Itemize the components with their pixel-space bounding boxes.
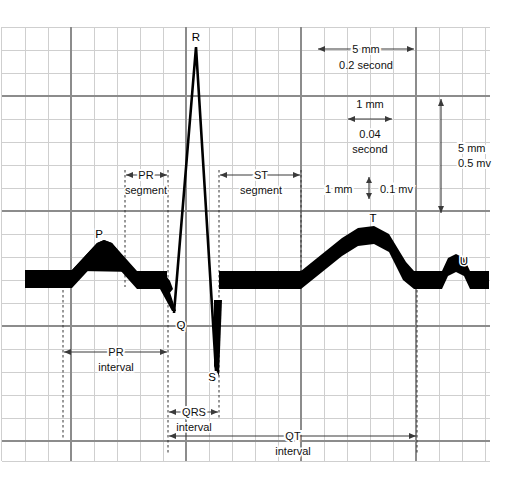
scale-vertical-minor-distance: 1 mm — [325, 183, 353, 195]
pr-segment-label: PR — [138, 169, 153, 181]
wave-label-p: P — [95, 228, 103, 240]
scale-vertical-major-distance: 5 mm — [458, 142, 486, 154]
pr-segment-sublabel: segment — [125, 184, 167, 196]
ecg-canvas: 5 mm 0.2 second 1 mm 0.04 second 5 mm 0.… — [0, 0, 515, 485]
scale-vertical-major-value: 0.5 mv — [458, 157, 492, 169]
ecg-s-wave — [214, 300, 222, 376]
st-segment-sublabel: segment — [240, 184, 282, 196]
qt-interval-label: QT — [285, 430, 301, 442]
scale-horizontal-minor-value: 0.04 — [359, 128, 380, 140]
wave-label-r: R — [192, 31, 200, 43]
scale-vertical-major: 5 mm 0.5 mv — [438, 99, 492, 213]
qt-interval-sublabel: interval — [275, 445, 310, 457]
scale-horizontal-major-value: 0.2 second — [339, 59, 393, 71]
qrs-interval-sublabel: interval — [176, 421, 211, 433]
pr-interval-sublabel: interval — [98, 361, 133, 373]
wave-label-u: U — [460, 255, 468, 267]
scale-horizontal-minor-distance: 1 mm — [356, 98, 384, 110]
scale-horizontal-major-distance: 5 mm — [352, 43, 380, 55]
wave-label-q: Q — [177, 319, 186, 331]
pr-segment-annotation: PR segment — [125, 169, 167, 196]
wave-labels: P Q R S T U — [95, 31, 468, 383]
scale-vertical-minor-value: 0.1 mv — [380, 183, 414, 195]
scale-vertical-minor: 1 mm 0.1 mv — [325, 177, 414, 199]
st-segment-label: ST — [254, 169, 268, 181]
scale-horizontal-minor-value-unit: second — [352, 143, 387, 155]
wave-label-t: T — [369, 212, 376, 224]
wave-label-s: S — [208, 371, 216, 383]
scale-horizontal-major: 5 mm 0.2 second — [318, 43, 414, 71]
qt-interval-annotation: QT interval — [169, 430, 416, 457]
qrs-interval-annotation: QRS interval — [169, 406, 218, 433]
pr-interval-label: PR — [108, 346, 123, 358]
qrs-interval-label: QRS — [182, 406, 206, 418]
ecg-diagram: 5 mm 0.2 second 1 mm 0.04 second 5 mm 0.… — [0, 0, 515, 485]
guide-lines — [63, 170, 417, 455]
pr-interval-annotation: PR interval — [64, 346, 167, 373]
